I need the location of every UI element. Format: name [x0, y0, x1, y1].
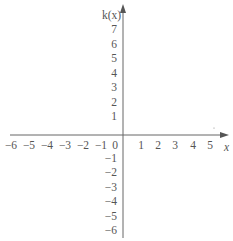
- x-tick-label: −6: [1, 139, 21, 151]
- stray-dot: [213, 127, 214, 128]
- y-tick-label: −6: [97, 224, 117, 236]
- x-tick-label: 3: [165, 139, 185, 151]
- y-tick-label: 1: [97, 110, 117, 122]
- y-tick-label: 2: [97, 96, 117, 108]
- y-tick-label: 6: [97, 38, 117, 50]
- y-tick-label: 3: [97, 81, 117, 93]
- x-tick-label: −3: [55, 139, 75, 151]
- y-tick-label: 4: [97, 67, 117, 79]
- x-axis-arrow-icon: [220, 132, 229, 138]
- y-tick-label: −2: [97, 166, 117, 178]
- y-axis-title: k(x): [102, 9, 121, 21]
- y-tick-label: 5: [97, 52, 117, 64]
- x-tick-label: −2: [73, 139, 93, 151]
- y-tick-label: −5: [97, 210, 117, 222]
- x-tick-label: −5: [19, 139, 39, 151]
- y-tick-label: −1: [97, 152, 117, 164]
- x-axis-title: x: [224, 141, 229, 153]
- x-tick-label: 5: [200, 139, 220, 151]
- x-tick-label: 0: [105, 139, 125, 151]
- y-tick-label: 7: [97, 23, 117, 35]
- y-tick-label: −3: [97, 181, 117, 193]
- y-tick-label: −4: [97, 195, 117, 207]
- x-tick-label: −4: [37, 139, 57, 151]
